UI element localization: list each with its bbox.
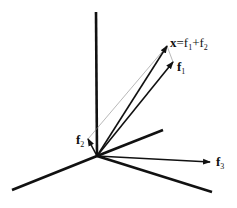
label-eq-f: =f xyxy=(177,35,189,50)
label-f1: f1 xyxy=(177,59,185,76)
axis-lower-left xyxy=(12,156,97,190)
label-f2: f2 xyxy=(76,132,84,149)
vector-x-arrow-icon xyxy=(97,46,167,156)
label-x-sum: x=f1+f2 xyxy=(170,35,208,52)
vectors xyxy=(88,46,210,162)
parallelogram-lines xyxy=(88,46,173,139)
label-f3: f3 xyxy=(216,154,224,171)
axis-vertical xyxy=(96,12,97,156)
label-f3-sub: 3 xyxy=(220,162,224,171)
vector-diagram: x=f1+f2 f1 f2 f3 xyxy=(0,0,237,208)
label-f2-sub: 2 xyxy=(80,140,84,149)
label-f1-sub: 1 xyxy=(181,67,185,76)
label-plus-f: +f xyxy=(192,35,204,50)
label-sub-2: 2 xyxy=(204,43,208,52)
construction-line-f2-to-x xyxy=(88,46,167,139)
